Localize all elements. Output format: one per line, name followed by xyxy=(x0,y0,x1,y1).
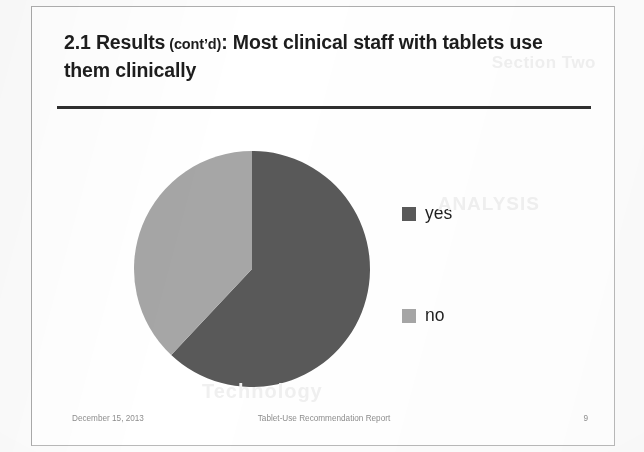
pie-chart xyxy=(132,149,372,389)
legend-item-yes[interactable]: yes xyxy=(402,203,542,225)
slide-footer: December 15, 2013 Tablet-Use Recommendat… xyxy=(32,414,615,428)
pie-chart-area: yes no xyxy=(32,111,615,391)
legend-item-no[interactable]: no xyxy=(402,305,542,327)
legend-swatch-yes-icon xyxy=(402,207,416,221)
pie-slices xyxy=(134,151,370,387)
slide-title: 2.1 Results (cont’d): Most clinical staf… xyxy=(64,29,579,84)
scanned-page-background: Section Two ANALYSIS Technology 2.1 Resu… xyxy=(0,0,644,452)
slide-frame: Section Two ANALYSIS Technology 2.1 Resu… xyxy=(31,6,615,446)
legend-swatch-no-icon xyxy=(402,309,416,323)
legend-label-no: no xyxy=(425,307,444,325)
slide-title-cont-note: (cont’d) xyxy=(165,36,221,52)
footer-page-number: 9 xyxy=(583,414,588,423)
legend-label-yes: yes xyxy=(425,205,452,223)
footer-document-title: Tablet-Use Recommendation Report xyxy=(32,414,615,423)
title-underline-rule xyxy=(57,106,591,109)
slide-title-part-1: 2.1 Results xyxy=(64,31,165,53)
chart-legend: yes no xyxy=(402,203,542,327)
